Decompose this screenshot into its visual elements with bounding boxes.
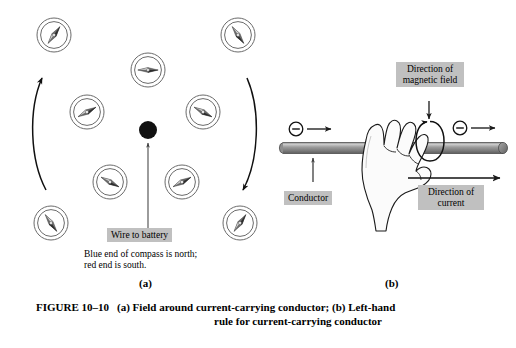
magnetic-field-label-line-1: Direction of (400, 64, 460, 75)
compass-top-left (37, 18, 71, 52)
current-direction-label-line-1: Direction of (422, 187, 480, 198)
hand-illustration (362, 120, 431, 231)
electron-left (289, 122, 303, 136)
conductor-end-cap (499, 142, 508, 153)
figure-illustration (0, 0, 516, 348)
field-arc-left (33, 78, 46, 190)
compass-note-line-1: Blue end of compass is north; (84, 249, 197, 261)
figure-caption-line-2: rule for current-carrying conductor (36, 314, 484, 328)
compass-bottom-right (223, 206, 257, 240)
compass-top-center (131, 53, 165, 87)
figure-caption: FIGURE 10–10(a) Field around current-car… (36, 300, 484, 328)
panel-b-letter: (b) (385, 277, 398, 289)
panel-a-letter: (a) (139, 277, 152, 289)
panel-a-illustration (33, 18, 257, 240)
compass-note-line-2: red end is south. (84, 260, 146, 272)
compass-low-right (165, 165, 199, 199)
compass-mid-left (70, 95, 104, 129)
field-arc-right (243, 78, 256, 190)
compass-mid-right (186, 95, 220, 129)
conductor-label: Conductor (284, 191, 332, 205)
figure-10-10: Wire to battery Blue end of compass is n… (0, 0, 516, 348)
magnetic-field-label-line-2: magnetic field (400, 75, 460, 86)
electron-right (453, 121, 467, 135)
compass-bottom-left (34, 206, 68, 240)
current-direction-label: Direction of current (418, 185, 484, 210)
compass-top-right (221, 18, 255, 52)
figure-caption-line-1: (a) Field around current-carrying conduc… (117, 301, 395, 313)
wire-to-battery-label: Wire to battery (107, 228, 172, 242)
figure-number: FIGURE 10–10 (36, 301, 109, 313)
magnetic-field-label: Direction of magnetic field (396, 62, 464, 87)
compass-low-left (93, 165, 127, 199)
current-direction-label-line-2: current (422, 198, 480, 209)
wire-end-dot (139, 121, 157, 139)
panel-b-illustration (279, 101, 507, 231)
